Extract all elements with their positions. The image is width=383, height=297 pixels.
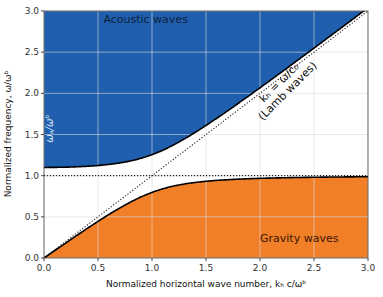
- y-tick-label: 0.5: [25, 212, 39, 222]
- x-tick-label: 1.0: [145, 263, 160, 273]
- x-tick-label: 0.5: [91, 263, 105, 273]
- y-tick-label: 0.0: [25, 253, 40, 263]
- x-tick-label: 0.0: [37, 263, 52, 273]
- gravity-waves-label: Gravity waves: [260, 232, 339, 245]
- x-tick-label: 3.0: [361, 263, 376, 273]
- y-tick-label: 2.5: [25, 47, 39, 57]
- x-tick-label: 1.5: [199, 263, 213, 273]
- y-tick-label: 1.5: [25, 130, 39, 140]
- omega-a-label: ωₐ/ωᵇ: [44, 114, 55, 142]
- dispersion-chart: 0.00.51.01.52.02.53.0 0.00.51.01.52.02.5…: [0, 0, 383, 297]
- x-tick-label: 2.5: [307, 263, 321, 273]
- y-tick-label: 3.0: [25, 6, 40, 16]
- y-tick-label: 1.0: [25, 171, 40, 181]
- acoustic-waves-label: Acoustic waves: [103, 13, 188, 26]
- x-axis-label: Normalized horizontal wave number, kₕ c/…: [106, 279, 306, 289]
- y-axis-label: Normalized frequency, ω/ωᵇ: [3, 71, 13, 198]
- y-tick-label: 2.0: [25, 88, 40, 98]
- x-tick-label: 2.0: [253, 263, 268, 273]
